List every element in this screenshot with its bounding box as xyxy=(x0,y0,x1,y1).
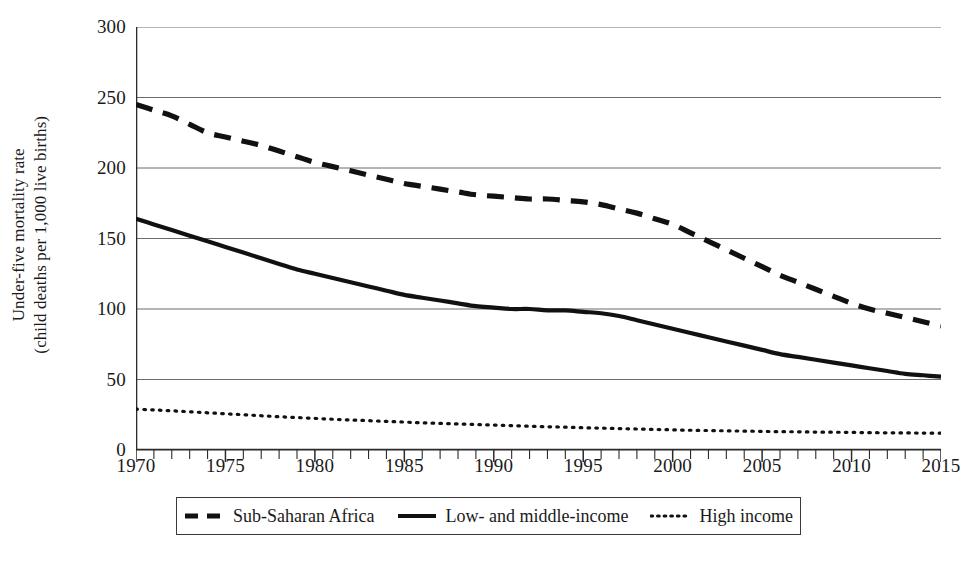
x-tick-label: 1970 xyxy=(117,455,156,477)
y-axis-label-line1: Under-five mortality rate xyxy=(8,116,30,354)
legend-item-label: Sub-Saharan Africa xyxy=(233,506,374,527)
legend-swatch-solid-icon xyxy=(397,509,437,523)
y-axis-tick-labels: 050100150200250300 xyxy=(64,27,126,450)
chart-figure: Under-five mortality rate (child deaths … xyxy=(0,0,976,564)
series-line-2 xyxy=(136,409,941,433)
series-line-1 xyxy=(136,219,941,377)
x-tick-label: 1975 xyxy=(206,455,245,477)
legend-item-label: High income xyxy=(699,506,792,527)
y-tick-label: 300 xyxy=(97,16,126,38)
chart-legend: Sub-Saharan AfricaLow- and middle-income… xyxy=(176,497,801,535)
y-axis-label-line2: (child deaths per 1,000 live births) xyxy=(30,116,52,354)
series-line-0 xyxy=(136,105,941,326)
x-tick-label: 2010 xyxy=(832,455,871,477)
legend-item[interactable]: Sub-Saharan Africa xyxy=(173,506,385,527)
legend-swatch-dashed-icon xyxy=(184,509,224,523)
x-tick-label: 2000 xyxy=(653,455,692,477)
y-axis-label: Under-five mortality rate (child deaths … xyxy=(0,0,60,470)
y-tick-label: 100 xyxy=(97,298,126,320)
plot-area xyxy=(136,27,941,450)
y-tick-label: 200 xyxy=(97,157,126,179)
x-tick-label: 1980 xyxy=(295,455,334,477)
x-tick-label: 2005 xyxy=(743,455,782,477)
y-tick-label: 250 xyxy=(97,87,126,109)
legend-item-label: Low- and middle-income xyxy=(446,506,629,527)
x-tick-label: 2015 xyxy=(922,455,961,477)
y-tick-label: 50 xyxy=(107,369,126,391)
x-tick-label: 1985 xyxy=(385,455,424,477)
x-tick-label: 1995 xyxy=(564,455,603,477)
legend-swatch-dotted-icon xyxy=(650,509,690,523)
y-tick-label: 150 xyxy=(97,228,126,250)
legend-item[interactable]: Low- and middle-income xyxy=(386,506,640,527)
x-axis-tick-labels: 1970197519801985199019952000200520102015 xyxy=(136,455,941,483)
x-tick-label: 1990 xyxy=(474,455,513,477)
legend-item[interactable]: High income xyxy=(639,506,803,527)
plot-svg xyxy=(136,27,941,464)
